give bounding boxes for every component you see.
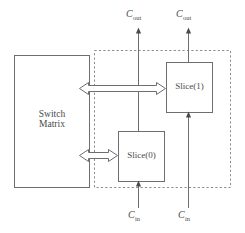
- carry-in-right-subscript: in: [185, 215, 190, 222]
- carry-out-left-subscript: out: [133, 14, 141, 21]
- carry-in-right-label: Cin: [178, 210, 190, 223]
- slice1-label: Slice(1): [167, 82, 212, 91]
- slice0-label: Slice(0): [119, 151, 164, 160]
- bus-arrow-slice0: [80, 150, 118, 162]
- switch-matrix-label-line2: Matrix: [15, 120, 89, 130]
- carry-in-right-symbol: C: [178, 209, 185, 220]
- carry-out-left-label: Cout: [126, 9, 141, 22]
- carry-in-left-label: Cin: [128, 210, 140, 223]
- carry-out-right-subscript: out: [183, 14, 191, 21]
- diagram-canvas: Cout Cout Cin Cin Slice(1) Slice(0) Swit…: [0, 0, 245, 233]
- carry-out-right-label: Cout: [176, 9, 191, 22]
- carry-out-left-arrowhead: [136, 28, 141, 34]
- bus-arrow-slice1: [80, 83, 166, 95]
- switch-matrix-label: Switch Matrix: [15, 110, 89, 130]
- carry-in-left-subscript: in: [135, 215, 140, 222]
- carry-out-right-arrowhead: [186, 28, 191, 34]
- carry-in-left-symbol: C: [128, 209, 135, 220]
- carry-out-left-symbol: C: [126, 8, 133, 19]
- carry-out-right-symbol: C: [176, 8, 183, 19]
